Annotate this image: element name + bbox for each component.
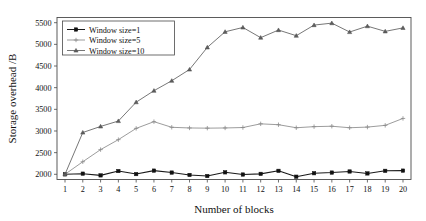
y-tick-label: 2500 xyxy=(35,149,51,158)
y-tick-label: 3500 xyxy=(35,105,51,114)
x-tick-label: 13 xyxy=(274,185,282,194)
y-tick-label: 2000 xyxy=(35,170,51,179)
storage-overhead-line-chart: 20002500300035004000450050005500 1234567… xyxy=(0,0,426,221)
y-tick-label: 5500 xyxy=(35,19,51,28)
x-tick-label: 6 xyxy=(152,185,156,194)
x-tick-label: 4 xyxy=(116,185,120,194)
x-tick-label: 19 xyxy=(381,185,389,194)
x-tick-label: 14 xyxy=(292,185,300,194)
y-tick-label: 4500 xyxy=(35,62,51,71)
x-tick-label: 9 xyxy=(205,185,209,194)
x-axis-label: Number of blocks xyxy=(194,203,273,215)
x-tick-label: 16 xyxy=(328,185,336,194)
legend-label: Window size=5 xyxy=(89,36,140,45)
x-tick-label: 20 xyxy=(399,185,407,194)
y-tick-label: 5000 xyxy=(35,40,51,49)
x-tick-label: 11 xyxy=(239,185,247,194)
x-tick-label: 15 xyxy=(310,185,318,194)
x-tick-label: 18 xyxy=(363,185,371,194)
chart-legend: Window size=1Window size=5Window size=10 xyxy=(63,21,175,56)
y-tick-label: 3000 xyxy=(35,127,51,136)
x-tick-label: 1 xyxy=(63,185,67,194)
x-tick-label: 8 xyxy=(187,185,191,194)
y-axis-label: Storage overhead /B xyxy=(6,54,18,144)
legend-label: Window size=1 xyxy=(89,26,140,35)
x-tick-label: 12 xyxy=(257,185,265,194)
chart-figure: 20002500300035004000450050005500 1234567… xyxy=(0,0,426,221)
y-tick-label: 4000 xyxy=(35,84,51,93)
x-tick-label: 5 xyxy=(134,185,138,194)
x-tick-label: 2 xyxy=(81,185,85,194)
x-tick-label: 7 xyxy=(170,185,174,194)
legend-label: Window size=10 xyxy=(89,47,144,56)
x-tick-label: 3 xyxy=(99,185,103,194)
x-tick-label: 17 xyxy=(346,185,354,194)
x-tick-label: 10 xyxy=(221,185,229,194)
